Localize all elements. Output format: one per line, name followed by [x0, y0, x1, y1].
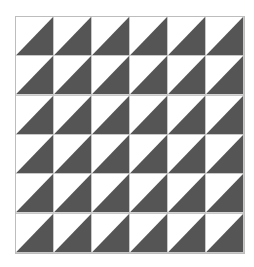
pattern-cell: [168, 214, 206, 253]
pattern-cell: [168, 135, 206, 174]
pattern-cell: [16, 135, 54, 174]
pattern-cell: [16, 56, 54, 95]
triangle-icon: [206, 56, 243, 94]
pattern-cell: [130, 135, 168, 174]
pattern-cell: [92, 17, 130, 56]
triangle-icon: [206, 17, 243, 55]
triangle-icon: [54, 174, 91, 212]
pattern-cell: [54, 56, 92, 95]
pattern-cell: [168, 174, 206, 213]
triangle-icon: [168, 174, 205, 212]
pattern-cell: [130, 96, 168, 135]
triangle-icon: [206, 96, 243, 134]
triangle-icon: [92, 17, 129, 55]
pattern-cell: [206, 174, 244, 213]
triangle-icon: [16, 135, 53, 173]
triangle-icon: [92, 214, 129, 252]
pattern-cell: [92, 56, 130, 95]
pattern-cell: [16, 17, 54, 56]
triangle-icon: [16, 96, 53, 134]
triangle-icon: [206, 214, 243, 252]
pattern-cell: [16, 214, 54, 253]
pattern-cell: [54, 174, 92, 213]
pattern-cell: [92, 174, 130, 213]
triangle-icon: [54, 96, 91, 134]
pattern-cell: [206, 17, 244, 56]
pattern-cell: [168, 56, 206, 95]
triangle-icon: [168, 214, 205, 252]
triangle-icon: [54, 56, 91, 94]
pattern-cell: [168, 17, 206, 56]
pattern-cell: [206, 214, 244, 253]
pattern-cell: [168, 96, 206, 135]
pattern-cell: [130, 174, 168, 213]
pattern-cell: [54, 96, 92, 135]
triangle-icon: [92, 56, 129, 94]
pattern-cell: [92, 96, 130, 135]
triangle-icon: [16, 17, 53, 55]
pattern-cell: [54, 135, 92, 174]
pattern-cell: [16, 96, 54, 135]
pattern-cell: [16, 174, 54, 213]
triangle-icon: [54, 214, 91, 252]
triangle-icon: [16, 56, 53, 94]
triangle-icon: [130, 174, 167, 212]
pattern-cell: [54, 17, 92, 56]
triangle-icon: [130, 135, 167, 173]
triangle-icon: [168, 96, 205, 134]
triangle-icon: [206, 174, 243, 212]
triangle-icon: [206, 135, 243, 173]
pattern-cell: [130, 17, 168, 56]
triangle-icon: [130, 56, 167, 94]
triangle-icon: [54, 17, 91, 55]
triangle-icon: [54, 135, 91, 173]
triangle-icon: [130, 96, 167, 134]
triangle-icon: [168, 135, 205, 173]
pattern-cell: [206, 56, 244, 95]
triangle-icon: [92, 96, 129, 134]
pattern-cell: [130, 56, 168, 95]
pattern-cell: [92, 214, 130, 253]
triangle-icon: [168, 56, 205, 94]
pattern-cell: [92, 135, 130, 174]
triangle-pattern-grid: [15, 16, 245, 254]
pattern-cell: [130, 214, 168, 253]
triangle-icon: [16, 174, 53, 212]
triangle-icon: [16, 214, 53, 252]
pattern-cell: [206, 96, 244, 135]
triangle-icon: [130, 214, 167, 252]
triangle-icon: [92, 135, 129, 173]
triangle-icon: [130, 17, 167, 55]
triangle-icon: [168, 17, 205, 55]
pattern-cell: [206, 135, 244, 174]
triangle-icon: [92, 174, 129, 212]
pattern-cell: [54, 214, 92, 253]
